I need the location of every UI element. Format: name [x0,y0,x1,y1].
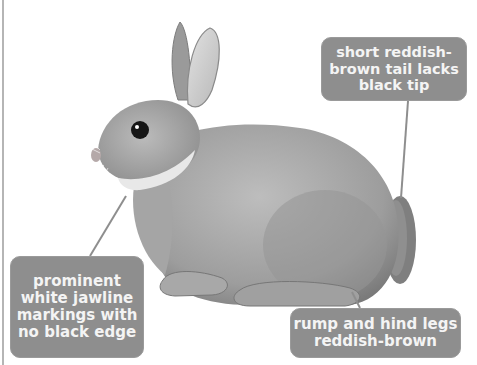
callout-jawline: prominent white jawline markings with no… [10,256,144,358]
ears [172,22,219,107]
callout-tail-text: short reddish- brown tail lacks black ti… [329,44,459,93]
callout-rump-text: rump and hind legs reddish-brown [294,316,458,350]
eye [131,121,149,139]
callout-jawline-text: prominent white jawline markings with no… [17,273,138,341]
callout-tail: short reddish- brown tail lacks black ti… [321,37,467,101]
callout-rump: rump and hind legs reddish-brown [290,308,461,358]
